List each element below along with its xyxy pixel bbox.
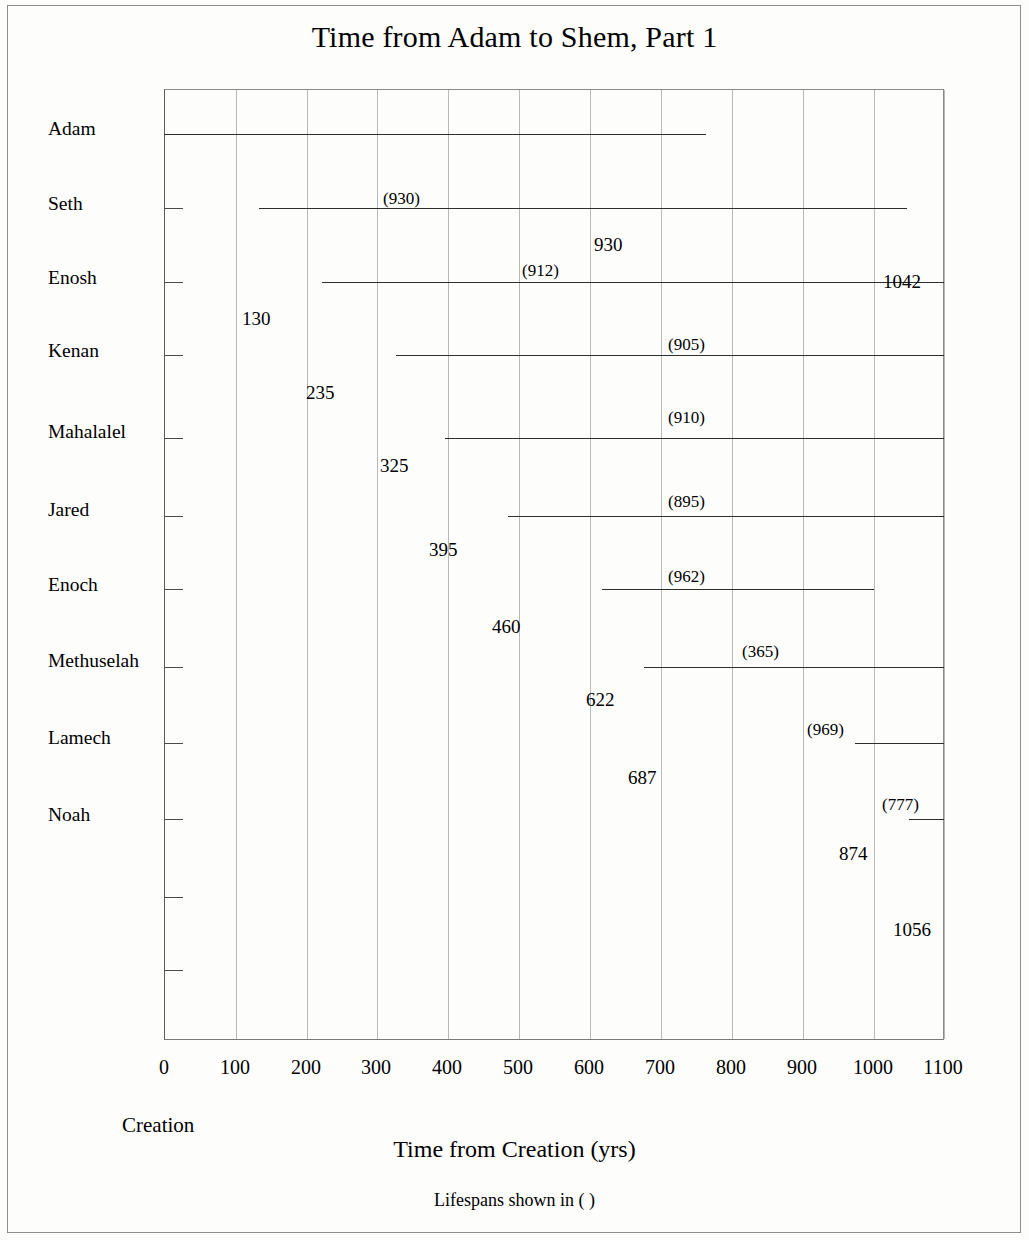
y-tick-noah bbox=[164, 819, 183, 820]
gridline-300 bbox=[377, 90, 378, 1039]
gridline-1100 bbox=[944, 90, 945, 1039]
y-tick-enosh bbox=[164, 282, 183, 283]
x-tick-300: 300 bbox=[361, 1056, 391, 1079]
x-tick-1000: 1000 bbox=[853, 1056, 893, 1079]
birth-label-mahalalel: 395 bbox=[429, 539, 458, 561]
bar-enoch bbox=[602, 589, 874, 590]
chart-footnote: Lifespans shown in ( ) bbox=[0, 1190, 1029, 1211]
bar-mahalalel bbox=[445, 438, 944, 439]
lifespan-label-kenan: (910) bbox=[668, 408, 705, 428]
y-tick-unlabeled-1 bbox=[164, 897, 183, 898]
y-label-seth: Seth bbox=[48, 193, 83, 215]
x-tick-200: 200 bbox=[291, 1056, 321, 1079]
y-label-lamech: Lamech bbox=[48, 727, 111, 749]
birth-label-kenan: 325 bbox=[380, 455, 409, 477]
gridline-1000 bbox=[874, 90, 875, 1039]
gridline-200 bbox=[307, 90, 308, 1039]
gridline-100 bbox=[236, 90, 237, 1039]
birth-label-lamech: 874 bbox=[839, 843, 868, 865]
bar-adam bbox=[165, 134, 706, 135]
bar-enosh bbox=[322, 282, 944, 283]
bar-methuselah bbox=[644, 667, 944, 668]
x-tick-500: 500 bbox=[503, 1056, 533, 1079]
y-label-enosh: Enosh bbox=[48, 267, 97, 289]
lifespan-label-mahalalel: (895) bbox=[668, 492, 705, 512]
lifespan-label-methuselah: (969) bbox=[807, 720, 844, 740]
y-label-methuselah: Methuselah bbox=[48, 650, 139, 672]
y-tick-mahalalel bbox=[164, 438, 183, 439]
x-tick-0: 0 bbox=[159, 1056, 169, 1079]
y-tick-enoch bbox=[164, 589, 183, 590]
y-label-enoch: Enoch bbox=[48, 574, 98, 596]
y-tick-unlabeled-2 bbox=[164, 970, 183, 971]
lifespan-label-enosh: (905) bbox=[668, 335, 705, 355]
death-label-adam: 930 bbox=[594, 234, 623, 256]
birth-label-enoch: 622 bbox=[586, 689, 615, 711]
x-tick-900: 900 bbox=[787, 1056, 817, 1079]
bar-seth bbox=[259, 208, 907, 209]
gridline-400 bbox=[448, 90, 449, 1039]
gridline-900 bbox=[803, 90, 804, 1039]
x-tick-700: 700 bbox=[645, 1056, 675, 1079]
gridline-700 bbox=[661, 90, 662, 1039]
y-tick-seth bbox=[164, 208, 183, 209]
x-tick-600: 600 bbox=[574, 1056, 604, 1079]
birth-label-noah: 1056 bbox=[893, 919, 931, 941]
y-label-adam: Adam bbox=[48, 118, 96, 140]
y-label-noah: Noah bbox=[48, 804, 90, 826]
lifespan-label-seth: (912) bbox=[522, 261, 559, 281]
birth-label-seth: 130 bbox=[242, 308, 271, 330]
page-title: Time from Adam to Shem, Part 1 bbox=[0, 20, 1029, 54]
plot-area bbox=[164, 89, 944, 1040]
y-tick-methuselah bbox=[164, 667, 183, 668]
creation-marker-label: Creation bbox=[122, 1113, 194, 1138]
death-label-seth: 1042 bbox=[883, 271, 921, 293]
x-tick-100: 100 bbox=[220, 1056, 250, 1079]
chart-page: Time from Adam to Shem, Part 1 AdamSethE… bbox=[0, 0, 1029, 1240]
lifespan-label-lamech: (777) bbox=[882, 795, 919, 815]
y-label-jared: Jared bbox=[48, 499, 89, 521]
x-tick-400: 400 bbox=[432, 1056, 462, 1079]
gridline-500 bbox=[519, 90, 520, 1039]
gridline-600 bbox=[590, 90, 591, 1039]
y-tick-lamech bbox=[164, 743, 183, 744]
lifespan-label-jared: (962) bbox=[668, 567, 705, 587]
birth-label-methuselah: 687 bbox=[628, 767, 657, 789]
lifespan-label-adam: (930) bbox=[383, 189, 420, 209]
lifespan-label-enoch: (365) bbox=[742, 642, 779, 662]
birth-label-enosh: 235 bbox=[306, 382, 335, 404]
y-label-mahalalel: Mahalalel bbox=[48, 421, 126, 443]
y-tick-kenan bbox=[164, 355, 183, 356]
bar-lamech bbox=[855, 743, 944, 744]
bar-jared bbox=[508, 516, 944, 517]
bar-kenan bbox=[396, 355, 944, 356]
birth-label-jared: 460 bbox=[492, 616, 521, 638]
y-label-kenan: Kenan bbox=[48, 340, 99, 362]
y-tick-jared bbox=[164, 516, 183, 517]
x-axis-title: Time from Creation (yrs) bbox=[0, 1136, 1029, 1163]
bar-noah bbox=[909, 819, 944, 820]
x-tick-1100: 1100 bbox=[923, 1056, 962, 1079]
x-tick-800: 800 bbox=[716, 1056, 746, 1079]
gridline-800 bbox=[732, 90, 733, 1039]
